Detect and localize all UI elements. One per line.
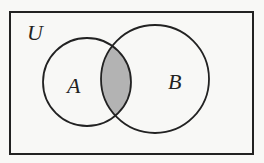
venn-diagram: U A B <box>0 0 264 163</box>
set-a-label: A <box>65 73 81 98</box>
set-b-label: B <box>168 69 181 94</box>
universe-label: U <box>27 20 45 45</box>
venn-svg: U A B <box>0 0 264 163</box>
